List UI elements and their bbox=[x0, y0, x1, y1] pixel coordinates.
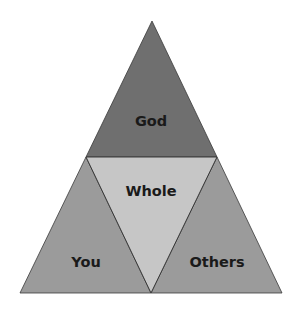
god-label: God bbox=[135, 113, 167, 129]
others-label: Others bbox=[189, 254, 244, 270]
pyramid-svg: God Whole You Others bbox=[0, 0, 301, 315]
pyramid-diagram: God Whole You Others bbox=[0, 0, 301, 315]
you-label: You bbox=[70, 254, 100, 270]
god-triangle bbox=[86, 21, 217, 157]
whole-label: Whole bbox=[125, 183, 176, 199]
